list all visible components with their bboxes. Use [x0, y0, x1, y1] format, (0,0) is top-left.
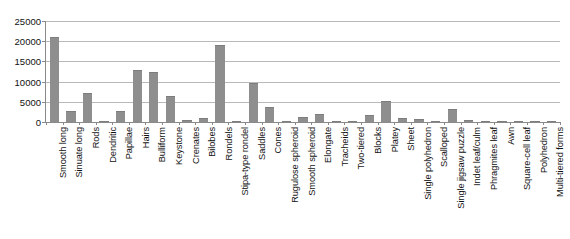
bar[interactable] [116, 111, 125, 122]
x-tick-label: Polyhedron [539, 127, 549, 173]
x-tick-mark [46, 122, 47, 125]
x-tick-mark [494, 122, 495, 125]
x-tick-mark [162, 122, 163, 125]
x-axis-tick-marks [46, 122, 560, 126]
x-tick-label: Indet leaf/culm [472, 127, 482, 186]
x-tick-mark [145, 122, 146, 125]
x-tick-mark [195, 122, 196, 125]
x-tick-label: Crenates [191, 127, 201, 164]
x-tick-label: Hairs [141, 127, 151, 148]
x-tick-mark [461, 122, 462, 125]
x-tick-label: Sinuate long [74, 127, 84, 178]
x-tick-label: Platey [390, 127, 400, 152]
bar[interactable] [249, 83, 258, 122]
x-tick-mark [477, 122, 478, 125]
x-tick-label: Tracheids [340, 127, 350, 167]
x-tick-mark [543, 122, 544, 125]
bar[interactable] [381, 101, 390, 122]
bar[interactable] [149, 72, 158, 122]
bar[interactable] [166, 96, 175, 122]
bar[interactable] [83, 93, 92, 122]
x-tick-mark [411, 122, 412, 125]
x-tick-label: Rugulose spheroid [290, 127, 300, 203]
x-tick-mark [328, 122, 329, 125]
y-tick-label-25000: 25000 [0, 17, 41, 27]
x-tick-mark [278, 122, 279, 125]
x-tick-label: Rondels [224, 127, 234, 160]
bar[interactable] [315, 114, 324, 122]
x-tick-mark [112, 122, 113, 125]
x-tick-label: Single jigsaw puzzle [456, 127, 466, 209]
x-tick-label: Awn [506, 127, 516, 145]
bar[interactable] [50, 37, 59, 122]
x-tick-label: Sheet [406, 127, 416, 151]
x-tick-mark [228, 122, 229, 125]
x-tick-label: Dendritic [108, 127, 118, 163]
y-tick-label-20000: 20000 [0, 37, 41, 47]
x-axis-tick-labels: Smooth longSinuate longRodsDendriticPapi… [46, 127, 560, 239]
x-tick-mark [295, 122, 296, 125]
x-tick-label: Scalloped [439, 127, 449, 167]
x-tick-label: Square-cell leaf [522, 127, 532, 190]
x-tick-mark [245, 122, 246, 125]
bar[interactable] [215, 45, 224, 122]
x-tick-label: Bulliform [157, 127, 167, 162]
x-tick-label: Keystone [174, 127, 184, 165]
y-tick-label-10000: 10000 [0, 77, 41, 87]
x-tick-mark [560, 122, 561, 125]
x-tick-label: Rods [91, 127, 101, 148]
x-tick-label: Two-tiered [356, 127, 366, 169]
x-tick-label: Smooth long [58, 127, 68, 178]
x-tick-label: Papillae [124, 127, 134, 159]
y-tick-label-0: 0 [0, 118, 41, 128]
x-tick-mark [427, 122, 428, 125]
bar-chart-figure: 0500010000150002000025000 Smooth longSin… [0, 0, 570, 239]
bar[interactable] [365, 115, 374, 122]
x-tick-mark [361, 122, 362, 125]
x-tick-mark [179, 122, 180, 125]
x-tick-label: Saddles [257, 127, 267, 160]
bar[interactable] [448, 109, 457, 122]
x-tick-mark [444, 122, 445, 125]
x-tick-mark [344, 122, 345, 125]
x-tick-mark [378, 122, 379, 125]
x-tick-mark [311, 122, 312, 125]
x-tick-label: Stipa-type rondel [240, 127, 250, 196]
x-tick-mark [510, 122, 511, 125]
y-tick-label-15000: 15000 [0, 57, 41, 67]
x-tick-label: Blocks [373, 127, 383, 154]
x-tick-label: Elongate [323, 127, 333, 163]
x-tick-mark [262, 122, 263, 125]
x-tick-label: Multi-tiered forms [555, 127, 565, 197]
x-tick-mark [129, 122, 130, 125]
plot-area [46, 21, 560, 122]
x-tick-mark [79, 122, 80, 125]
x-tick-mark [527, 122, 528, 125]
x-tick-label: Bilobes [207, 127, 217, 157]
x-tick-mark [394, 122, 395, 125]
bar[interactable] [133, 70, 142, 122]
x-tick-mark [212, 122, 213, 125]
x-tick-mark [96, 122, 97, 125]
chart-title [0, 0, 570, 9]
x-tick-label: Phragmites leaf [489, 127, 499, 190]
x-tick-label: Smooth spheroid [307, 127, 317, 196]
x-tick-label: Single polyhedron [423, 127, 433, 200]
x-tick-label: Cones [273, 127, 283, 153]
bars-layer [46, 21, 560, 122]
bar[interactable] [66, 111, 75, 122]
bar[interactable] [265, 107, 274, 122]
y-axis-tick-labels: 0500010000150002000025000 [0, 21, 41, 122]
x-tick-mark [63, 122, 64, 125]
y-tick-label-5000: 5000 [0, 97, 41, 107]
